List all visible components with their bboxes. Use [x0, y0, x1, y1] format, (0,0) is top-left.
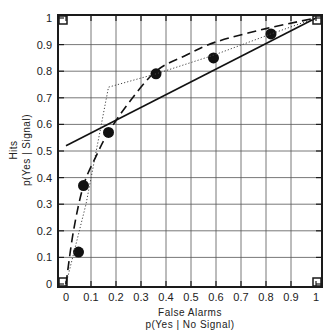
- y-tick-label: 0.1: [37, 251, 52, 263]
- y-tick-label: 0.7: [37, 92, 52, 104]
- y-tick-label: 0.9: [37, 39, 52, 51]
- corner-marker-tr: [313, 16, 321, 24]
- corner-marker-br: [313, 278, 321, 286]
- x-tick-label: 0: [63, 291, 69, 303]
- y-tick-label: 0.8: [37, 65, 52, 77]
- roc-chart: 00.10.20.30.40.50.60.70.80.91 00.10.20.3…: [0, 0, 333, 332]
- data-point: [208, 52, 219, 63]
- x-tick-label: 0.6: [208, 291, 223, 303]
- x-tick-label: 0.7: [233, 291, 248, 303]
- data-point: [266, 28, 277, 39]
- y-axis-subtitle: p(Yes | Signal): [21, 114, 32, 186]
- y-tick-label: 0.5: [37, 145, 52, 157]
- x-tick-label: 0.3: [133, 291, 148, 303]
- y-tick-label: 0: [46, 278, 52, 290]
- x-tick-label: 0.5: [183, 291, 198, 303]
- x-tick-label: 0.2: [108, 291, 123, 303]
- data-point: [73, 247, 84, 258]
- x-tick-label: 0.8: [258, 291, 273, 303]
- y-tick-label: 0.3: [37, 198, 52, 210]
- x-axis-title: False Alarms: [158, 307, 222, 318]
- x-tick-label: 0.4: [158, 291, 173, 303]
- x-tick-label: 0.1: [83, 291, 98, 303]
- x-tick-label: 0.9: [283, 291, 298, 303]
- y-axis-title: Hits: [8, 140, 19, 159]
- grid-lines: [58, 15, 322, 287]
- y-tick-label: 0.4: [37, 172, 52, 184]
- x-axis-subtitle: p(Yes | No Signal): [145, 319, 234, 330]
- y-tick-label: 0.6: [37, 118, 52, 130]
- y-tick-label: 0.2: [37, 225, 52, 237]
- y-tick-label: 1: [46, 12, 52, 24]
- x-tick-label: 1: [313, 291, 319, 303]
